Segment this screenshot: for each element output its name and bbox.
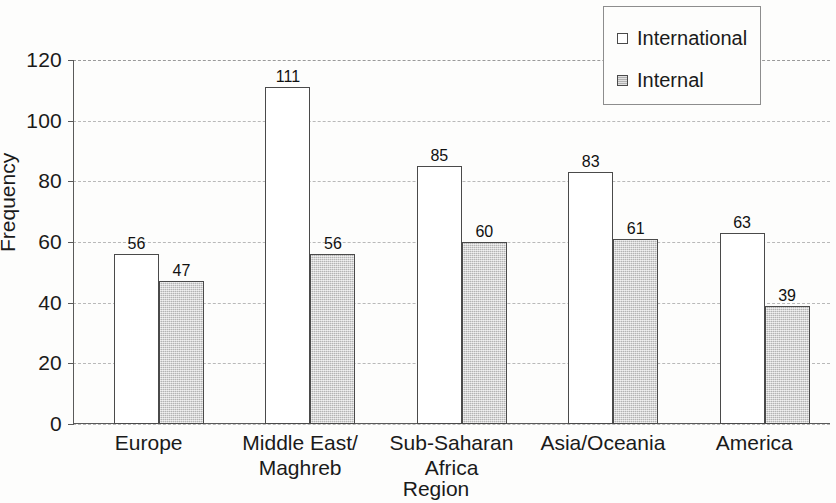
- x-axis-title-text: Region: [403, 477, 470, 501]
- x-category-label-0: Europe: [73, 430, 224, 455]
- y-tick-label-120: 120: [26, 48, 62, 72]
- x-category-label-3: Asia/Oceania: [527, 430, 678, 455]
- chart-legend: International Internal: [603, 6, 761, 105]
- bar-value-label-international-3: 83: [582, 154, 600, 170]
- gridline-0: [73, 424, 830, 425]
- bar-international-2: 85: [417, 166, 462, 424]
- y-tick-mark-0: [68, 424, 74, 425]
- x-category-label-line1-3: Asia/Oceania: [527, 430, 678, 455]
- y-tick-label-60: 60: [38, 230, 62, 254]
- bar-internal-4: 39: [765, 306, 810, 424]
- bar-internal-3: 61: [613, 239, 658, 424]
- y-tick-mark-20: [68, 363, 74, 364]
- x-category-label-line1-1: Middle East/: [224, 430, 375, 455]
- x-category-label-line1-2: Sub-Saharan: [376, 430, 527, 455]
- bar-internal-2: 60: [462, 242, 507, 424]
- bar-value-label-international-1: 111: [276, 69, 300, 85]
- bar-international-0: 56: [114, 254, 159, 424]
- legend-label-international: International: [637, 27, 747, 50]
- y-tick-mark-40: [68, 303, 74, 304]
- bar-value-label-internal-2: 60: [475, 224, 493, 240]
- y-tick-mark-60: [68, 242, 74, 243]
- bar-value-label-internal-0: 47: [173, 263, 191, 279]
- legend-entry-international: International: [617, 27, 747, 50]
- bar-value-label-internal-3: 61: [627, 221, 645, 237]
- bar-value-label-internal-1: 56: [324, 236, 342, 252]
- bar-value-label-international-4: 63: [733, 215, 751, 231]
- bar-internal-0: 47: [159, 281, 204, 424]
- y-tick-mark-100: [68, 121, 74, 122]
- y-axis-title: Frequency: [0, 153, 20, 252]
- y-tick-mark-80: [68, 181, 74, 182]
- legend-swatch-international-icon: [617, 33, 628, 44]
- y-tick-label-80: 80: [38, 169, 62, 193]
- bar-international-4: 63: [720, 233, 765, 424]
- y-tick-label-40: 40: [38, 291, 62, 315]
- y-tick-mark-120: [68, 60, 74, 61]
- gridline-100: [73, 121, 830, 122]
- chart-page: Frequency 020406080100120 56471115685608…: [0, 0, 836, 503]
- y-tick-label-0: 0: [50, 412, 62, 436]
- bar-internal-1: 56: [310, 254, 355, 424]
- legend-swatch-internal-icon: [617, 75, 628, 86]
- x-category-label-line1-4: America: [679, 430, 830, 455]
- legend-entry-internal: Internal: [617, 69, 704, 92]
- y-tick-label-100: 100: [26, 109, 62, 133]
- x-category-label-4: America: [679, 430, 830, 455]
- x-category-label-2: Sub-SaharanAfrica: [376, 430, 527, 480]
- x-axis-title: Region: [0, 477, 836, 501]
- bar-international-1: 111: [265, 87, 310, 424]
- bar-international-3: 83: [568, 172, 613, 424]
- bar-value-label-internal-4: 39: [778, 288, 796, 304]
- bar-value-label-international-2: 85: [430, 148, 448, 164]
- legend-label-internal: Internal: [637, 69, 704, 92]
- y-tick-label-20: 20: [38, 351, 62, 375]
- bar-value-label-international-0: 56: [128, 236, 146, 252]
- plot-area: 020406080100120 564711156856083616339: [73, 60, 830, 424]
- x-category-label-line1-0: Europe: [73, 430, 224, 455]
- x-category-label-1: Middle East/Maghreb: [224, 430, 375, 480]
